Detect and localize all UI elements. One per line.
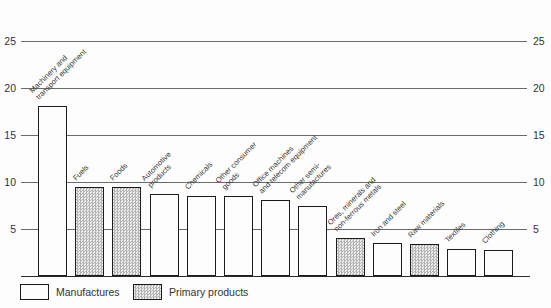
gridline-20 <box>21 88 527 89</box>
bar-label-textiles: Textiles <box>444 220 468 244</box>
bar-label-foods: Foods <box>109 162 130 183</box>
bar-label-fuels: Fuels <box>72 164 91 183</box>
bar-raw-materials <box>410 244 439 276</box>
y-tick-label-right-5: 5 <box>533 223 551 235</box>
bar-label-raw-materials: Raw materials <box>407 200 447 240</box>
bar-foods <box>112 187 141 276</box>
bar-clothing <box>484 250 513 276</box>
legend-swatch-primary-products <box>133 284 162 300</box>
x-axis-baseline <box>21 276 530 277</box>
bar-chemicals <box>187 196 216 276</box>
legend-swatch-manufactures <box>20 284 49 300</box>
bar-label-chemicals: Chemicals <box>183 161 214 192</box>
y-tick-label-right-15: 15 <box>533 129 551 141</box>
bar-fuels <box>75 187 104 276</box>
bar-label-automotive-products: Automotiveproducts <box>140 150 180 190</box>
y-tick-label-left-15: 15 <box>0 129 16 141</box>
y-tick-label-right-10: 10 <box>533 176 551 188</box>
bar-textiles <box>447 249 476 276</box>
y-tick-label-right-20: 20 <box>533 82 551 94</box>
bar-iron-and-steel <box>373 243 402 276</box>
bar-automotive-products <box>150 194 179 276</box>
gridline-15 <box>21 135 527 136</box>
bar-label-clothing: Clothing <box>481 220 507 246</box>
bar-other-semi-manufactures <box>298 206 327 276</box>
legend-label-primary-products: Primary products <box>169 286 248 298</box>
bar-ores-minerals-and-non-ferrous-metals <box>336 238 365 276</box>
plot-area: 551010151520202525Machinery andtransport… <box>0 0 551 308</box>
y-tick-label-right-25: 25 <box>533 35 551 47</box>
bar-label-machinery-and-transport-equipment: Machinery andtransport equipment <box>28 42 88 102</box>
bar-machinery-and-transport-equipment <box>38 106 67 276</box>
y-tick-label-left-5: 5 <box>0 223 16 235</box>
gridline-25 <box>21 41 527 42</box>
bar-other-consumer-goods <box>224 196 253 276</box>
bar-label-iron-and-steel: Iron and steel <box>369 200 408 239</box>
bar-office-machines-and-telecom-equipment <box>261 200 290 276</box>
y-tick-label-left-20: 20 <box>0 82 16 94</box>
legend-label-manufactures: Manufactures <box>56 286 120 298</box>
bar-chart-figure: 551010151520202525Machinery andtransport… <box>0 0 551 308</box>
y-tick-label-left-10: 10 <box>0 176 16 188</box>
legend: Manufactures Primary products <box>0 282 551 308</box>
y-tick-label-left-25: 25 <box>0 35 16 47</box>
